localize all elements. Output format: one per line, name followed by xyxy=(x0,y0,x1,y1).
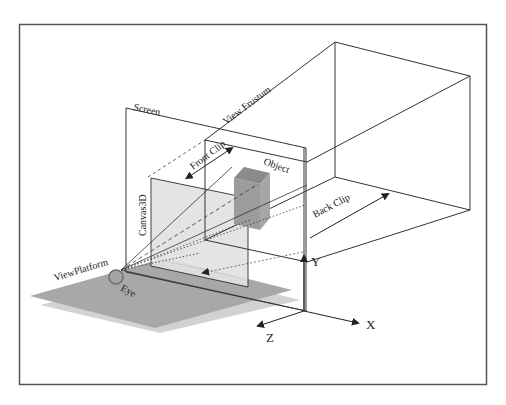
label-view-frustum: View Frustum xyxy=(221,83,273,126)
object-cube xyxy=(234,167,270,230)
label-axis-z: Z xyxy=(266,330,274,345)
label-canvas3d: Canvas3D xyxy=(137,194,148,236)
label-axis-y: Y xyxy=(311,254,321,269)
label-screen: Screen xyxy=(133,101,162,117)
label-back-clip: Back Clip xyxy=(311,191,352,220)
back-clip-plane xyxy=(335,42,470,210)
label-axis-x: X xyxy=(366,317,376,332)
eye-icon xyxy=(109,270,123,284)
label-object: Object xyxy=(262,156,291,176)
diagram-canvas: Screen View Frustum Front Clip Object Ba… xyxy=(0,0,506,405)
